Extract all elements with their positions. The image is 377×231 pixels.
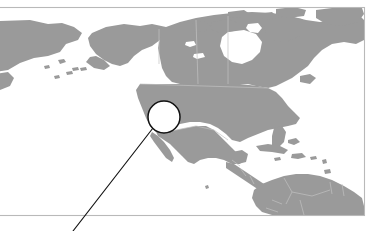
world-map <box>0 0 377 231</box>
map-figure <box>0 0 377 231</box>
